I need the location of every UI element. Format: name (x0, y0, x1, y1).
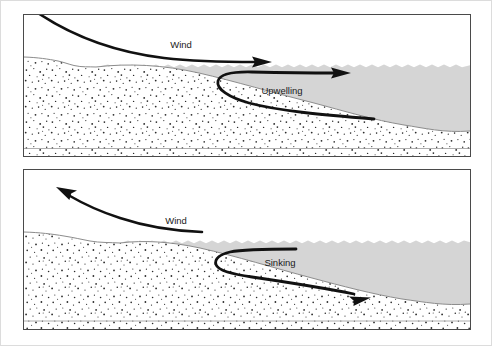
upwelling-panel: Wind Upwelling (23, 14, 471, 157)
sinking-scene: Wind Sinking (24, 170, 470, 329)
figure-container: Wind Upwelling (0, 0, 492, 346)
sinking-panel: Wind Sinking (23, 169, 471, 330)
sinking-label: Sinking (264, 257, 295, 268)
sinking-diagram: Wind Sinking (24, 170, 470, 329)
upwelling-scene: Wind Upwelling (24, 15, 470, 156)
wind-label-bottom: Wind (165, 215, 187, 226)
upwelling-diagram: Wind Upwelling (24, 15, 470, 156)
wind-label-top: Wind (170, 39, 192, 50)
upwelling-label: Upwelling (261, 85, 302, 96)
